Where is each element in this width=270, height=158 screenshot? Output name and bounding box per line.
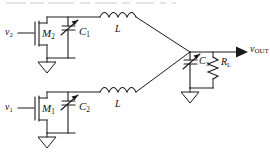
bottom-combine-wire	[136, 52, 190, 92]
label-m2: M2	[42, 28, 55, 39]
output-network	[181, 47, 248, 104]
inductor-bottom-coil	[100, 88, 136, 93]
vout-arrow-icon	[236, 47, 248, 58]
label-c1: C1	[79, 26, 90, 37]
inductor-top-coil	[100, 13, 136, 18]
ground-bottom	[38, 133, 56, 148]
label-vout: vOUT	[250, 44, 269, 54]
label-v1: v1	[5, 102, 13, 112]
top-combine-wire	[136, 17, 190, 52]
ground-output	[181, 88, 199, 103]
circuit-schematic-svg	[0, 0, 270, 158]
circuit-diagram-canvas: v2 v1 M2 M1 C1 C2 C3 L L RL vOUT	[0, 0, 270, 158]
ground-top	[38, 58, 56, 73]
top-branch	[18, 13, 190, 74]
label-inductor-bottom: L	[115, 99, 121, 109]
rl-zigzag	[208, 57, 218, 79]
label-rl: RL	[221, 57, 231, 67]
label-c2: C2	[79, 101, 90, 112]
label-inductor-top: L	[115, 24, 121, 34]
label-m1: M1	[42, 103, 55, 114]
top-edge-artifact	[6, 2, 176, 4]
label-c3: C3	[199, 56, 209, 66]
label-v2: v2	[5, 27, 13, 37]
bottom-branch	[18, 52, 190, 148]
